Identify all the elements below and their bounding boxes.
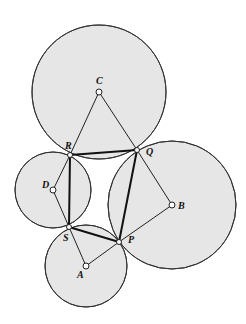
label-b: B — [177, 200, 185, 211]
point-d — [50, 187, 56, 193]
label-a: A — [76, 269, 84, 280]
point-s — [67, 225, 72, 230]
point-p — [117, 240, 122, 245]
point-r — [68, 153, 73, 158]
label-c: C — [96, 75, 103, 86]
label-p: P — [128, 234, 135, 245]
point-q — [135, 148, 140, 153]
label-r: R — [64, 140, 72, 151]
label-q: Q — [146, 146, 153, 157]
point-c — [96, 89, 102, 95]
segment-sr — [69, 155, 70, 227]
point-a — [83, 263, 89, 269]
point-b — [169, 202, 175, 208]
label-s: S — [63, 232, 69, 243]
label-d: D — [41, 179, 49, 190]
geometry-diagram: C R Q B D S P A — [0, 0, 246, 324]
